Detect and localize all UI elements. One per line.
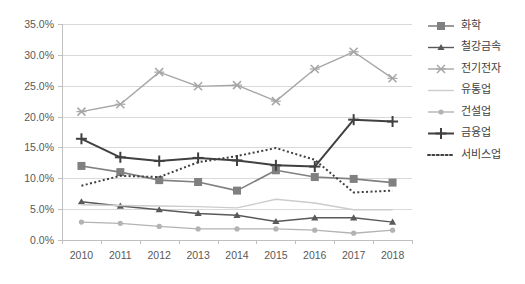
x-axis-label-2016: 2016 (303, 249, 327, 261)
y-axis-label-35.0%: 35.0% (24, 18, 54, 30)
y-axis-label-30.0%: 30.0% (24, 49, 54, 61)
y-axis-label-20.0%: 20.0% (24, 111, 54, 123)
x-axis-label-2018: 2018 (381, 249, 405, 261)
legend-label-화학: 화학 (461, 19, 481, 31)
line-chart: 0.0%5.0%10.0%15.0%20.0%25.0%30.0%35.0% 2… (0, 0, 525, 284)
marker-건설업-dot (234, 226, 239, 231)
y-axis-label-0.0%: 0.0% (30, 234, 54, 246)
x-axis-label-2010: 2010 (70, 249, 94, 261)
legend-label-전기전자: 전기전자 (461, 62, 501, 74)
marker-건설업-dot (273, 226, 278, 231)
marker-화학-square (311, 173, 319, 181)
y-axis-label-10.0%: 10.0% (24, 172, 54, 184)
marker-건설업-dot (312, 228, 317, 233)
marker-화학-square (194, 178, 202, 186)
y-axis-label-5.0%: 5.0% (30, 203, 54, 215)
marker-건설업-dot (157, 224, 162, 229)
x-axis-label-2014: 2014 (225, 249, 249, 261)
x-axis-label-2012: 2012 (148, 249, 172, 261)
marker-화학-square (389, 179, 397, 187)
x-axis-label-2011: 2011 (109, 249, 132, 261)
marker-건설업-dot (118, 221, 123, 226)
legend-label-건설업: 건설업 (461, 105, 491, 117)
marker-legend-화학-square (437, 22, 445, 30)
marker-legend-건설업-dot (438, 109, 443, 114)
y-axis-label-15.0%: 15.0% (24, 141, 54, 153)
legend-label-철강금속: 철강금속 (461, 40, 501, 52)
x-axis-label-2015: 2015 (264, 249, 288, 261)
x-axis-label-2017: 2017 (342, 249, 366, 261)
marker-건설업-dot (390, 228, 395, 233)
x-axis-tick-labels: 201020112012201320142015201620172018 (70, 249, 405, 261)
x-axis-label-2013: 2013 (186, 249, 210, 261)
legend-label-유통업: 유통업 (461, 83, 491, 95)
chart-plot-background (0, 0, 525, 284)
marker-화학-square (77, 162, 85, 170)
chart-container: 0.0%5.0%10.0%15.0%20.0%25.0%30.0%35.0% 2… (0, 0, 525, 284)
marker-건설업-dot (196, 226, 201, 231)
legend-label-금융업: 금융업 (461, 126, 491, 138)
marker-화학-square (233, 187, 241, 195)
marker-건설업-dot (79, 220, 84, 225)
legend-label-서비스업: 서비스업 (461, 148, 501, 160)
y-axis-label-25.0%: 25.0% (24, 80, 54, 92)
marker-건설업-dot (351, 231, 356, 236)
marker-화학-square (350, 175, 358, 183)
